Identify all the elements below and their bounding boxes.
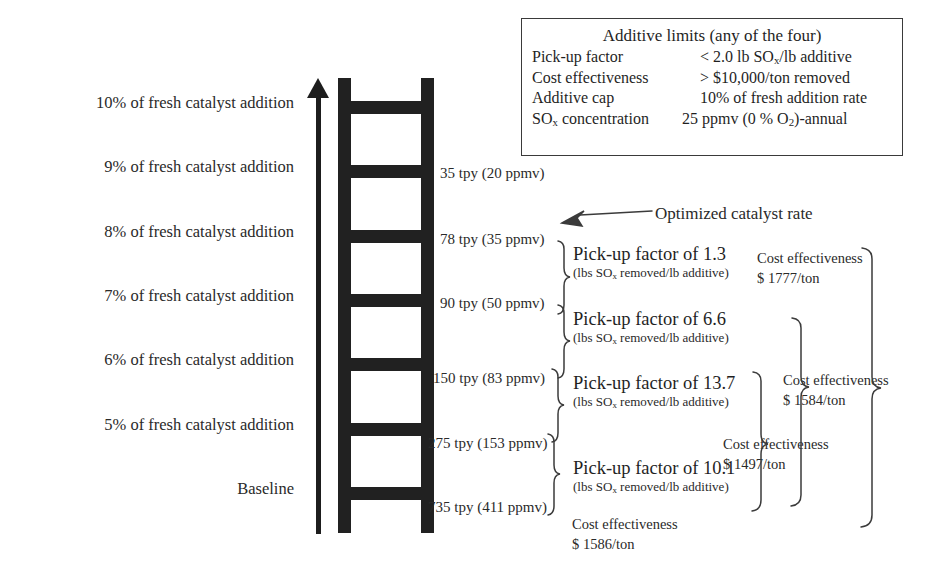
optimized-arrowhead-icon [562,211,584,226]
cost-effectiveness-block-1777: Cost effectiveness $ 1777/ton [757,249,863,288]
limit-value-cost-effectiveness: > $10,000/ton removed [700,68,892,89]
optimized-leader-line [580,211,652,215]
sox-ladder-figure: 10% of fresh catalyst addition 9% of fre… [0,0,931,568]
step-label-9pct: 9% of fresh catalyst addition [14,159,294,176]
ladder-rung-baseline [338,487,434,500]
pickup-factor-units-2: (lbs SOx removed/lb additive) [573,330,729,347]
cost-effectiveness-title-1584: Cost effectiveness [783,371,889,391]
limit-value-additive-cap: 10% of fresh addition rate [700,88,892,109]
up-arrow-shaft-icon [316,92,321,534]
limit-value-sox-concentration: 25 ppmv (0 % O2)-annual [682,109,892,130]
pickup-factor-block-4: Pick-up factor of 10.1 (lbs SOx removed/… [573,459,735,496]
pickup-factor-block-1: Pick-up factor of 1.3 (lbs SOx removed/l… [573,245,729,282]
limit-name-additive-cap: Additive cap [532,88,700,109]
rung-value-275tpy: 275 tpy (153 ppmv) [428,436,588,451]
additive-limits-title: Additive limits (any of the four) [532,25,892,47]
cost-effectiveness-amount-1777: $ 1777/ton [757,269,863,289]
limit-name-cost-effectiveness: Cost effectiveness [532,68,700,89]
pickup-factor-block-2: Pick-up factor of 6.6 (lbs SOx removed/l… [573,310,729,347]
pickup-factor-value-3: Pick-up factor of 13.7 [573,374,735,393]
cost-effectiveness-amount-1586: $ 1586/ton [572,535,678,555]
step-label-5pct: 5% of fresh catalyst addition [14,417,294,434]
cost-effectiveness-amount-1497: $ 1497/ton [723,455,829,475]
brace-cost-1584 [791,318,809,506]
limit-name-sox-concentration: SOx concentration [532,109,682,130]
cost-effectiveness-title-1586: Cost effectiveness [572,515,678,535]
pickup-factor-value-4: Pick-up factor of 10.1 [573,459,735,478]
pickup-factor-units-1: (lbs SOx removed/lb additive) [573,265,729,282]
pickup-factor-value-1: Pick-up factor of 1.3 [573,245,729,264]
brace-pickup-2 [558,305,570,378]
cost-effectiveness-title-1497: Cost effectiveness [723,435,829,455]
limit-value-pickup-factor: < 2.0 lb SOx/lb additive [700,47,892,68]
rung-value-150tpy: 150 tpy (83 ppmv) [433,371,593,386]
pickup-factor-units-4: (lbs SOx removed/lb additive) [573,479,735,496]
ladder-rung-5pct [338,423,434,436]
step-label-baseline: Baseline [14,481,294,498]
step-label-7pct: 7% of fresh catalyst addition [14,288,294,305]
ladder-rung-6pct [338,358,434,371]
cost-effectiveness-block-1497: Cost effectiveness $ 1497/ton [723,435,829,474]
limit-row-cost-effectiveness: Cost effectiveness > $10,000/ton removed [532,68,892,89]
cost-effectiveness-amount-1584: $ 1584/ton [783,391,889,411]
limit-name-pickup-factor: Pick-up factor [532,47,700,68]
ladder-rung-10pct [338,101,434,114]
cost-effectiveness-block-1586: Cost effectiveness $ 1586/ton [572,515,678,554]
limit-row-sox-concentration: SOx concentration 25 ppmv (0 % O2)-annua… [532,109,892,130]
cost-effectiveness-title-1777: Cost effectiveness [757,249,863,269]
ladder-rung-9pct [338,165,434,178]
pickup-factor-value-2: Pick-up factor of 6.6 [573,310,729,329]
step-label-8pct: 8% of fresh catalyst addition [14,224,294,241]
ladder-rung-8pct [338,230,434,243]
step-label-10pct: 10% of fresh catalyst addition [14,95,294,112]
rung-value-35tpy: 35 tpy (20 ppmv) [440,166,600,181]
rung-value-735tpy: 735 tpy (411 ppmv) [428,500,588,515]
additive-limits-box: Additive limits (any of the four) Pick-u… [521,18,903,156]
cost-effectiveness-block-1584: Cost effectiveness $ 1584/ton [783,371,889,410]
limit-row-additive-cap: Additive cap 10% of fresh addition rate [532,88,892,109]
ladder-rung-7pct [338,294,434,307]
limit-row-pickup-factor: Pick-up factor < 2.0 lb SOx/lb additive [532,47,892,68]
pickup-factor-block-3: Pick-up factor of 13.7 (lbs SOx removed/… [573,374,735,411]
optimized-catalyst-rate-label: Optimized catalyst rate [655,205,813,222]
pickup-factor-units-3: (lbs SOx removed/lb additive) [573,394,735,411]
step-label-6pct: 6% of fresh catalyst addition [14,352,294,369]
